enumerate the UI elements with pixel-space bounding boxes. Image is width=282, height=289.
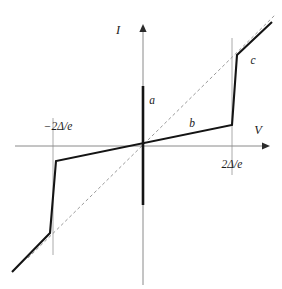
tick-label-positive-gap: 2Δ/e xyxy=(222,158,243,170)
current-axis-arrowhead xyxy=(139,24,146,32)
voltage-axis-arrowhead xyxy=(262,142,270,149)
iv-characteristic-figure: I V −2Δ/e 2Δ/e a b c xyxy=(0,0,282,289)
ohmic-dashed-line xyxy=(28,14,276,258)
voltage-axis-label: V xyxy=(254,123,263,137)
tick-label-negative-gap: −2Δ/e xyxy=(44,120,73,132)
segment-label-a: a xyxy=(149,94,155,106)
iv-chart-svg: I V −2Δ/e 2Δ/e a b c xyxy=(0,0,282,289)
segment-label-b: b xyxy=(189,117,195,129)
current-axis-label: I xyxy=(115,23,121,37)
segment-label-c: c xyxy=(250,54,255,66)
